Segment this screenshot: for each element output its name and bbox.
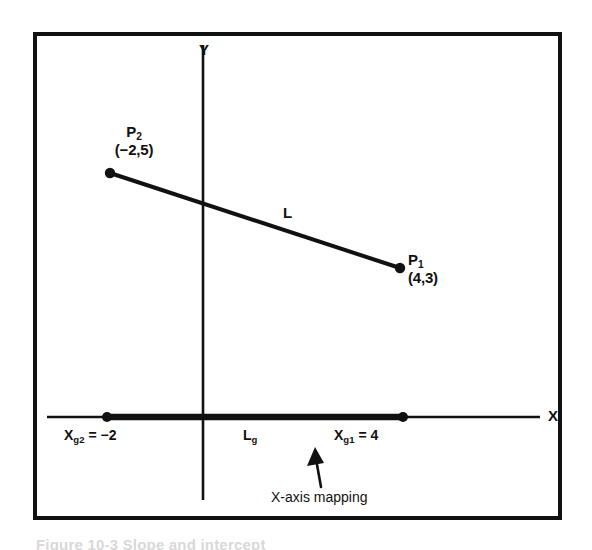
x-axis-mapping-annotation: X-axis mapping xyxy=(271,490,368,505)
figure-root: Y X P2 (−2,5) P1 (4,3) L Xg2= −2 Lg Xg1=… xyxy=(0,0,592,550)
point-P1-name-line: P1 xyxy=(408,252,470,270)
point-P1-name: P xyxy=(408,251,418,268)
y-axis-label: Y xyxy=(199,42,209,58)
point-P2-dot xyxy=(105,168,115,178)
x-projection-Xg2-name: X xyxy=(64,427,73,443)
segment-L-label: L xyxy=(283,205,292,221)
point-Xg1-dot xyxy=(398,412,408,422)
point-P2-coordinates: (−2,5) xyxy=(96,142,172,158)
x-projection-Xg1-value: = 4 xyxy=(354,427,378,443)
point-P1-dot xyxy=(395,263,405,273)
x-projection-Xg2-value: = −2 xyxy=(84,427,116,443)
point-P2-name: P xyxy=(126,123,136,140)
point-Xg2-dot xyxy=(102,412,112,422)
x-axis-label: X xyxy=(548,408,558,424)
point-P2-label: P2 (−2,5) xyxy=(96,124,172,158)
figure-caption: Figure 10-3 Slope and intercept xyxy=(36,536,576,550)
segment-Lg-subscript: g xyxy=(252,434,258,445)
x-projection-Xg1-subscript: g1 xyxy=(343,434,354,445)
x-projection-Xg2-subscript: g2 xyxy=(73,434,84,445)
x-projection-Xg1-label: Xg1= 4 xyxy=(334,428,378,445)
segment-Lg-label: Lg xyxy=(243,428,257,445)
x-projection-Xg1-name: X xyxy=(334,427,343,443)
segment-Lg-name: L xyxy=(243,427,252,443)
diagram-canvas xyxy=(0,0,592,550)
point-P1-coordinates: (4,3) xyxy=(408,270,470,286)
figure-frame xyxy=(35,34,560,518)
point-P2-name-line: P2 xyxy=(96,124,172,142)
point-P1-label: P1 (4,3) xyxy=(408,252,470,286)
x-projection-Xg2-label: Xg2= −2 xyxy=(64,428,116,445)
